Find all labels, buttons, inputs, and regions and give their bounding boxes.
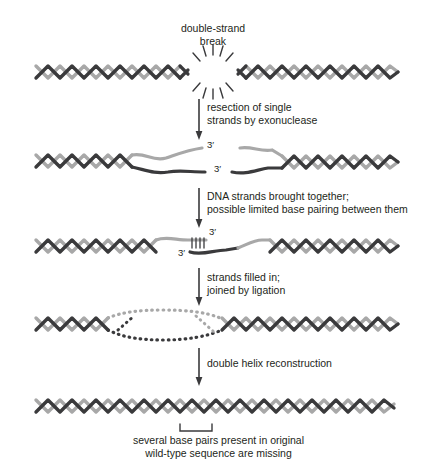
arrow-label-resection: resection of single strands by exonuclea…	[207, 101, 317, 126]
light-bridge-strand	[156, 238, 206, 240]
arrow-label-brought-together: DNA strands brought together; possible l…	[207, 190, 408, 215]
double-strand-break-label: double-strand break	[158, 22, 268, 47]
prime-label-row2-bottom: 3′	[214, 164, 221, 174]
dna-double-strand-break-repair-diagram	[0, 0, 437, 464]
prime-label-row3-right: 3′	[209, 227, 216, 237]
arrow-label-helix-reconstruction: double helix reconstruction	[207, 357, 332, 370]
prime-label-row3-left: 3′	[178, 248, 185, 258]
figure-caption: several base pairs present in original w…	[0, 434, 437, 460]
arrow-label-filled-ligation: strands filled in; joined by ligation	[207, 271, 285, 296]
prime-label-row2-top: 3′	[207, 140, 214, 150]
